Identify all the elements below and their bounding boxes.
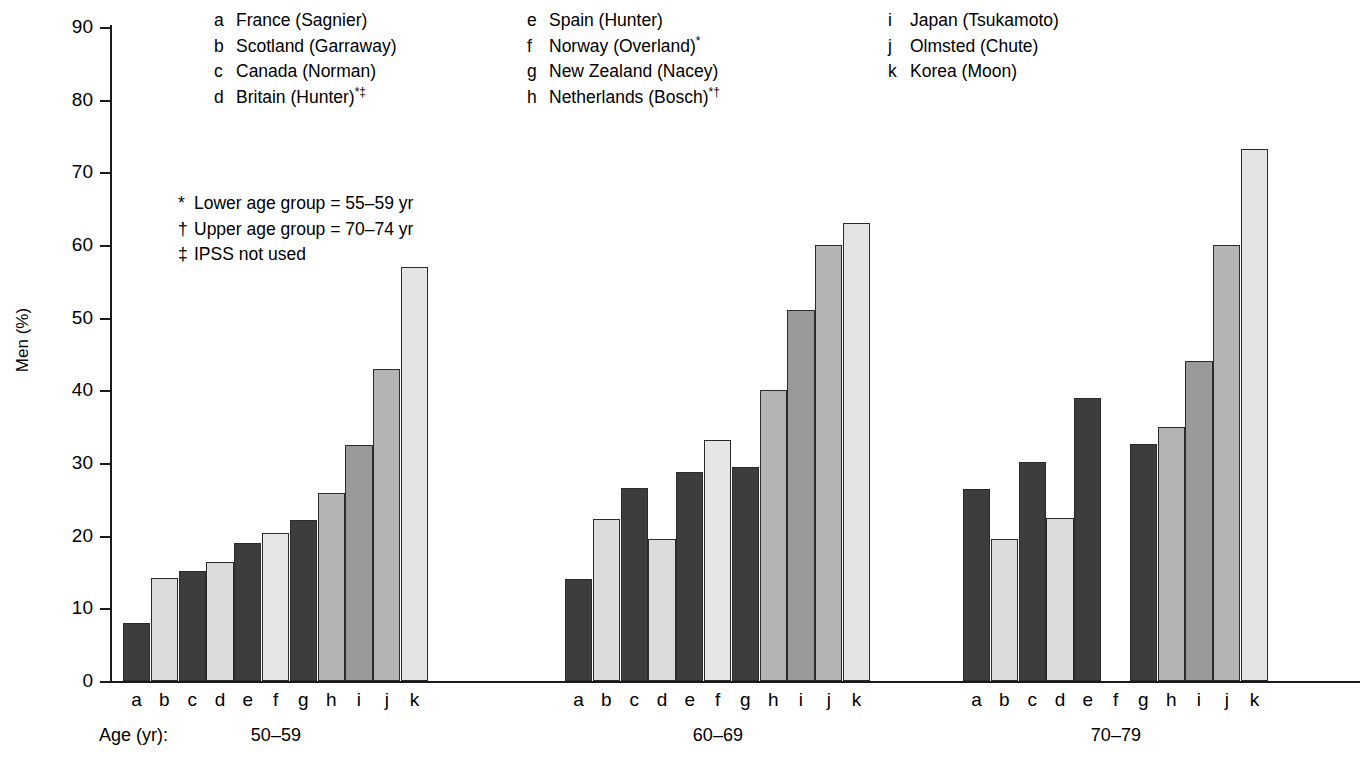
- cat-letter-60-69-k: k: [843, 690, 870, 709]
- bar-50-59-e: [234, 543, 261, 681]
- bar-70-79-e: [1074, 398, 1101, 681]
- bar-70-79-j: [1213, 245, 1240, 681]
- cat-letter-60-69-d: d: [648, 690, 675, 709]
- cat-letter-70-79-c: c: [1019, 690, 1046, 709]
- bar-60-69-a: [565, 579, 592, 681]
- cat-letter-60-69-i: i: [787, 690, 814, 709]
- bar-60-69-g: [732, 467, 759, 681]
- group-label-60-69: 60–69: [565, 725, 871, 746]
- y-tick-label: 70: [53, 162, 93, 181]
- bar-50-59-h: [318, 493, 345, 681]
- y-tick-label: 30: [53, 453, 93, 472]
- y-tick-label: 0: [53, 671, 93, 690]
- cat-letter-50-59-i: i: [345, 690, 372, 709]
- y-tick-label: 60: [53, 235, 93, 254]
- x-axis-line: [110, 681, 1360, 683]
- bar-60-69-e: [676, 472, 703, 681]
- bar-70-79-a: [963, 489, 990, 681]
- group-label-50-59: 50–59: [123, 725, 429, 746]
- y-tick-label: 20: [53, 526, 93, 545]
- cat-letter-50-59-c: c: [179, 690, 206, 709]
- y-tick-label: 40: [53, 380, 93, 399]
- cat-letter-70-79-b: b: [991, 690, 1018, 709]
- bar-50-59-a: [123, 623, 150, 681]
- y-axis-label: Men (%): [13, 270, 33, 410]
- bar-50-59-g: [290, 520, 317, 681]
- bar-50-59-d: [206, 562, 233, 681]
- cat-letter-70-79-h: h: [1158, 690, 1185, 709]
- figure-root: Men (%) 0102030405060708090 aFrance (Sag…: [0, 0, 1369, 767]
- cat-letter-60-69-j: j: [815, 690, 842, 709]
- y-tick-label: 50: [53, 308, 93, 327]
- bar-70-79-i: [1185, 361, 1212, 681]
- bar-70-79-g: [1130, 444, 1157, 681]
- cat-letter-70-79-a: a: [963, 690, 990, 709]
- cat-letter-50-59-b: b: [151, 690, 178, 709]
- bar-60-69-c: [621, 488, 648, 681]
- plot-area: [110, 25, 1360, 681]
- cat-letter-70-79-j: j: [1213, 690, 1240, 709]
- bar-60-69-b: [593, 519, 620, 681]
- cat-letter-60-69-b: b: [593, 690, 620, 709]
- bar-70-79-h: [1158, 427, 1185, 681]
- cat-letter-50-59-e: e: [234, 690, 261, 709]
- cat-letter-70-79-i: i: [1185, 690, 1212, 709]
- cat-letter-50-59-g: g: [290, 690, 317, 709]
- cat-letter-60-69-e: e: [676, 690, 703, 709]
- y-tick-mark: [100, 681, 111, 683]
- bar-50-59-j: [373, 369, 400, 681]
- bar-50-59-b: [151, 578, 178, 681]
- cat-letter-60-69-g: g: [732, 690, 759, 709]
- bar-70-79-k: [1241, 149, 1268, 681]
- bar-60-69-d: [648, 539, 675, 681]
- cat-letter-60-69-a: a: [565, 690, 592, 709]
- bar-60-69-f: [704, 440, 731, 681]
- cat-letter-60-69-f: f: [704, 690, 731, 709]
- group-label-70-79: 70–79: [963, 725, 1269, 746]
- cat-letter-50-59-d: d: [206, 690, 233, 709]
- bar-60-69-h: [760, 390, 787, 681]
- bar-70-79-b: [991, 539, 1018, 681]
- bar-60-69-k: [843, 223, 870, 681]
- bar-50-59-k: [401, 267, 428, 681]
- cat-letter-50-59-k: k: [401, 690, 428, 709]
- cat-letter-70-79-d: d: [1046, 690, 1073, 709]
- cat-letter-70-79-g: g: [1130, 690, 1157, 709]
- cat-letter-50-59-f: f: [262, 690, 289, 709]
- y-tick-label: 10: [53, 598, 93, 617]
- cat-letter-60-69-c: c: [621, 690, 648, 709]
- cat-letter-70-79-f: f: [1102, 690, 1129, 709]
- bar-70-79-c: [1019, 462, 1046, 681]
- bar-50-59-f: [262, 533, 289, 681]
- cat-letter-70-79-k: k: [1241, 690, 1268, 709]
- cat-letter-70-79-e: e: [1074, 690, 1101, 709]
- bar-50-59-c: [179, 571, 206, 681]
- cat-letter-50-59-h: h: [318, 690, 345, 709]
- bar-50-59-i: [345, 445, 372, 681]
- cat-letter-60-69-h: h: [760, 690, 787, 709]
- bar-60-69-j: [815, 245, 842, 681]
- cat-letter-50-59-a: a: [123, 690, 150, 709]
- bar-60-69-i: [787, 310, 814, 681]
- bar-70-79-d: [1046, 518, 1073, 682]
- cat-letter-50-59-j: j: [373, 690, 400, 709]
